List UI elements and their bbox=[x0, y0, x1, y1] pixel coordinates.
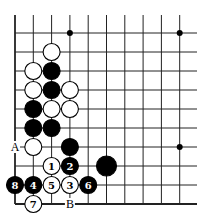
white-stone-disc bbox=[61, 101, 78, 118]
black-stone-disc bbox=[43, 120, 60, 137]
white-stone bbox=[61, 101, 78, 118]
black-stone bbox=[61, 139, 78, 156]
stone-move-3: 3 bbox=[61, 177, 78, 194]
stone-move-2: 2 bbox=[61, 158, 78, 175]
black-stone-disc bbox=[43, 82, 60, 99]
white-stone bbox=[25, 63, 42, 80]
move-number: 4 bbox=[30, 180, 37, 191]
white-stone-disc bbox=[25, 63, 42, 80]
black-stone-disc bbox=[25, 101, 42, 118]
black-stone bbox=[25, 101, 42, 118]
white-stone-disc bbox=[25, 139, 42, 156]
black-stone bbox=[43, 120, 60, 137]
star-point bbox=[177, 30, 183, 36]
white-stone bbox=[43, 44, 60, 61]
white-stone bbox=[25, 82, 42, 99]
black-stone bbox=[43, 63, 60, 80]
white-stone-disc bbox=[43, 44, 60, 61]
black-stone-disc bbox=[25, 120, 42, 137]
move-number: 2 bbox=[66, 161, 73, 172]
white-stone-disc bbox=[43, 101, 60, 118]
move-number: 3 bbox=[66, 180, 73, 191]
stone-move-4: 4 bbox=[25, 177, 42, 194]
black-stone bbox=[25, 120, 42, 137]
move-number: 8 bbox=[12, 180, 19, 191]
move-number: 7 bbox=[30, 199, 37, 210]
white-stone bbox=[25, 139, 42, 156]
move-number: 5 bbox=[48, 180, 55, 191]
white-stone-disc bbox=[61, 82, 78, 99]
move-number: 1 bbox=[48, 161, 55, 172]
black-stone-disc bbox=[61, 139, 78, 156]
go-board-diagram: 12345678 AB bbox=[0, 0, 206, 219]
white-stone bbox=[43, 101, 60, 118]
stone-move-6: 6 bbox=[80, 177, 97, 194]
white-stone bbox=[61, 82, 78, 99]
black-stone-disc bbox=[43, 63, 60, 80]
star-point bbox=[67, 30, 73, 36]
stone-move-1: 1 bbox=[43, 158, 60, 175]
black-stone bbox=[97, 156, 117, 176]
point-label-a: A bbox=[11, 140, 20, 154]
black-stone-disc bbox=[97, 156, 117, 176]
point-label-b: B bbox=[66, 197, 74, 211]
star-point bbox=[177, 144, 183, 150]
stone-move-8: 8 bbox=[7, 177, 24, 194]
stone-move-5: 5 bbox=[43, 177, 60, 194]
black-stone bbox=[43, 82, 60, 99]
white-stone-disc bbox=[25, 82, 42, 99]
stone-move-7: 7 bbox=[25, 196, 42, 213]
move-number: 6 bbox=[85, 180, 92, 191]
